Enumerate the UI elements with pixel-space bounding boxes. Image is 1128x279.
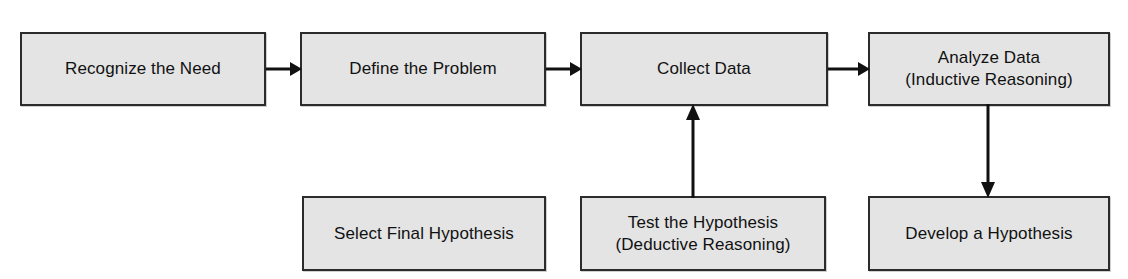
node-analyze-data[interactable]: Analyze Data (Inductive Reasoning) [868,32,1110,106]
node-select-final-hypothesis[interactable]: Select Final Hypothesis [302,196,546,271]
node-label-develop-a-hypothesis: Develop a Hypothesis [899,223,1078,245]
arrow-test-to-collect [682,104,704,198]
node-label-recognize-the-need: Recognize the Need [59,58,227,80]
node-recognize-the-need[interactable]: Recognize the Need [20,32,266,106]
node-label-select-final-hypothesis: Select Final Hypothesis [328,223,520,245]
node-define-the-problem[interactable]: Define the Problem [300,32,546,106]
node-label-analyze-data: Analyze Data (Inductive Reasoning) [899,47,1078,91]
flowchart-canvas: Recognize the Need Define the Problem Co… [0,0,1128,279]
node-collect-data[interactable]: Collect Data [580,32,828,106]
node-develop-a-hypothesis[interactable]: Develop a Hypothesis [868,196,1110,271]
node-label-collect-data: Collect Data [651,58,757,80]
node-label-define-the-problem: Define the Problem [343,58,502,80]
node-test-the-hypothesis[interactable]: Test the Hypothesis (Deductive Reasoning… [580,196,826,271]
arrow-analyze-to-develop [977,104,999,198]
arrow-collect-to-analyze [828,58,870,80]
arrow-define-to-collect [546,58,582,80]
node-label-test-the-hypothesis: Test the Hypothesis (Deductive Reasoning… [609,212,796,256]
arrow-recognize-to-define [266,58,302,80]
